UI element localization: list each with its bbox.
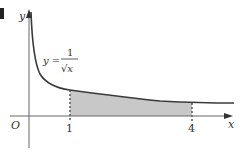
graph-figure: y x O 1 4 y = 1 √x [0,0,242,157]
question-marker [0,8,4,19]
equation-numerator: 1 [67,47,73,58]
tick-label-1: 1 [66,122,73,135]
equation-denominator: √x [61,63,73,74]
tick-label-4: 4 [188,122,195,135]
equation-label: y = 1 √x [42,47,78,74]
shaded-area [70,90,192,116]
equation-lhs: y = [42,55,60,66]
origin-label: O [11,119,20,132]
x-axis-label: x [228,118,235,131]
y-axis-label: y [18,10,26,23]
curve [31,12,234,103]
